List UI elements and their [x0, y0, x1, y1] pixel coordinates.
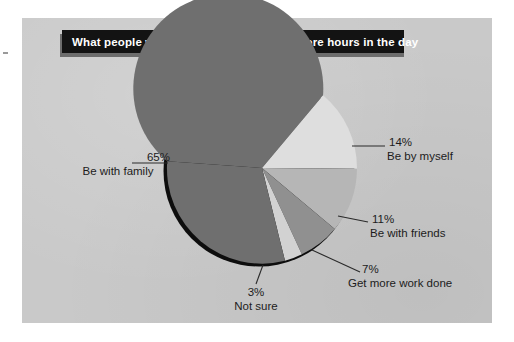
callout-percent: 11%	[370, 212, 490, 226]
callout-description: Be with family	[64, 164, 172, 178]
callout-be-with-friends: 11% Be with friends	[370, 212, 490, 240]
callout-description: Not sure	[218, 299, 294, 313]
callout-description: Be by myself	[387, 149, 497, 163]
callout-percent: 14%	[387, 135, 497, 149]
callout-not-sure: 3% Not sure	[218, 285, 294, 313]
callout-be-with-family: 65% Be with family	[64, 150, 172, 178]
callout-be-by-myself: 14% Be by myself	[387, 135, 497, 163]
pie-slices	[133, 0, 357, 264]
pie-chart-poster: What people would do if they had three m…	[0, 0, 514, 342]
callout-percent: 3%	[218, 285, 294, 299]
callout-percent: 65%	[64, 150, 172, 164]
leader-line-be-with-friends	[338, 216, 368, 222]
callout-get-more-work-done: 7% Get more work done	[348, 262, 498, 290]
callout-percent: 7%	[348, 262, 498, 276]
leader-line-not-sure	[256, 265, 263, 284]
callout-description: Be with friends	[370, 226, 490, 240]
callout-description: Get more work done	[348, 276, 498, 290]
